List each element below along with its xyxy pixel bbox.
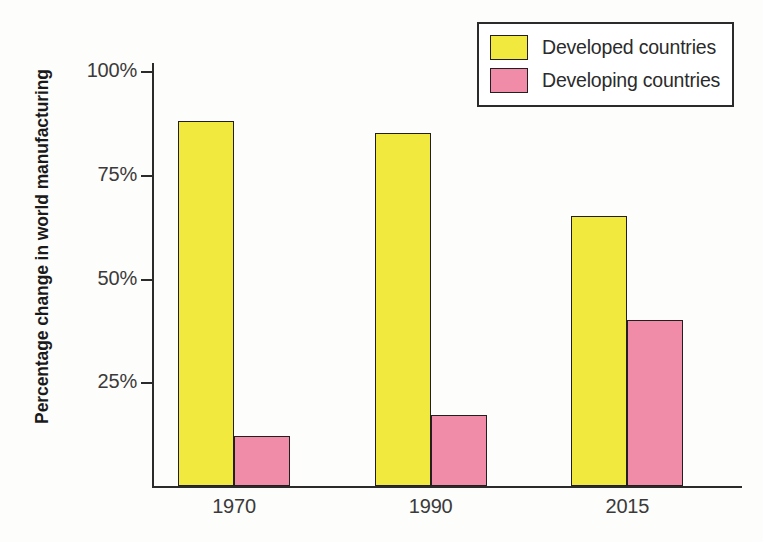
legend-label-developing: Developing countries [542,69,720,92]
legend-item-developed: Developed countries [490,31,720,64]
bar-1970-developed [178,121,234,486]
plot-area: 100%75%50%25% 197019902015 [152,63,742,488]
legend-swatch-icon-developed [490,35,528,60]
x-axis-line [152,486,742,488]
y-tick-label: 25% [98,371,137,394]
legend-swatch-icon-developing [490,68,528,93]
y-tick-label: 100% [87,59,137,82]
y-tick-label: 75% [98,163,137,186]
y-tick-mark [141,382,152,384]
bar-2015-developed [571,216,627,486]
y-tick-mark [141,279,152,281]
bar-1990-developed [375,133,431,486]
legend-item-developing: Developing countries [490,64,720,97]
y-axis-title: Percentage change in world manufacturing [32,37,53,457]
y-axis-line [152,63,154,488]
y-tick-mark [141,175,152,177]
x-category-label-2015: 2015 [605,495,649,518]
x-category-label-1970: 1970 [212,495,256,518]
bar-2015-developing [627,320,683,486]
y-tick-mark [141,71,152,73]
y-axis-title-container: Percentage change in world manufacturing [0,0,60,500]
legend-label-developed: Developed countries [542,36,716,59]
chart-legend: Developed countries Developing countries [477,22,734,107]
x-category-label-1990: 1990 [409,495,453,518]
y-tick-label: 50% [98,267,137,290]
bar-1970-developing [234,436,290,486]
bar-chart-figure: Percentage change in world manufacturing… [0,0,763,542]
bar-1990-developing [431,415,487,486]
